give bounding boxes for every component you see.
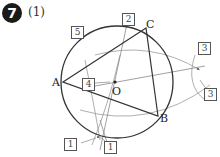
part-label: (1)	[28, 5, 45, 19]
step-label-1-left: 1	[64, 138, 77, 151]
intersection-right	[197, 68, 199, 70]
problem-number-badge: 7	[2, 3, 22, 23]
point-label-a: A	[52, 77, 60, 88]
center-point-o	[113, 80, 116, 83]
leader-4	[95, 82, 110, 83]
point-label-c: C	[146, 19, 154, 30]
arc-mid-vertical	[92, 55, 120, 145]
point-label-b: B	[160, 113, 168, 124]
construction-diagram	[0, 0, 220, 157]
step-label-4: 4	[82, 78, 95, 91]
step-label-5: 5	[71, 26, 84, 39]
diagram-stage: 7 (1) A B C O 5 2 3 3 4 1 1	[0, 0, 220, 157]
arc-right	[192, 55, 205, 100]
bisector-bc	[95, 66, 205, 86]
step-label-3-lower: 3	[204, 88, 217, 101]
intersection-bottom	[97, 136, 99, 138]
arc-upper	[95, 50, 200, 70]
step-label-1-bottom: 1	[104, 141, 117, 154]
point-label-o: O	[112, 86, 121, 97]
step-label-3-upper: 3	[198, 42, 211, 55]
arc-left-vertical	[85, 60, 100, 140]
step-label-2: 2	[122, 13, 135, 26]
